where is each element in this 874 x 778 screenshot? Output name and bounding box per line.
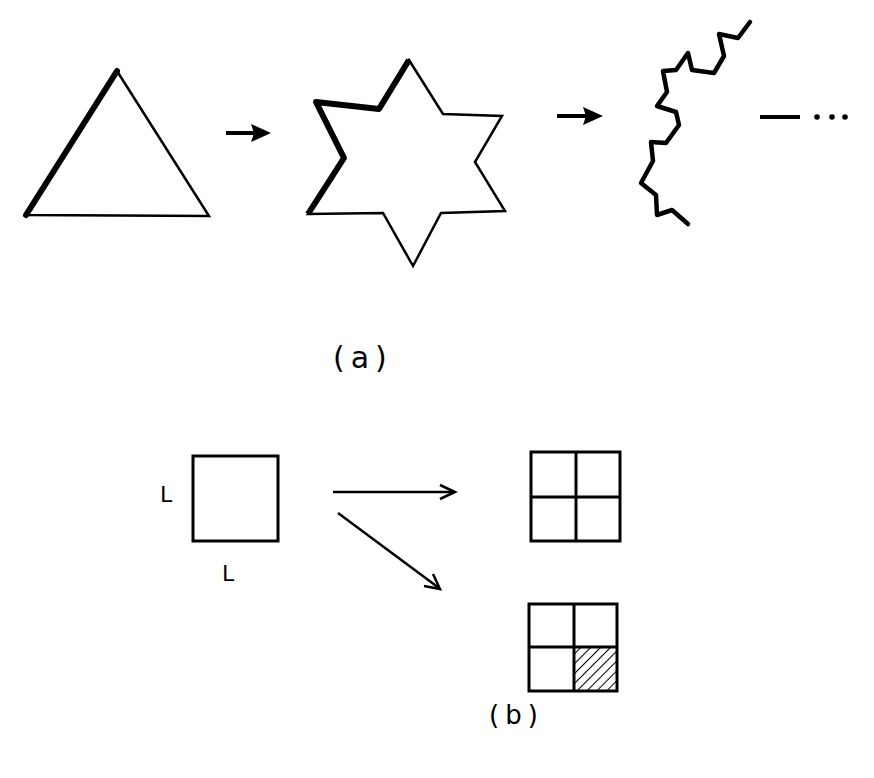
figure-canvas bbox=[0, 0, 874, 778]
triangle-shape bbox=[26, 71, 209, 216]
arrow-icon bbox=[333, 485, 455, 499]
continuation-icon bbox=[760, 114, 848, 120]
side-length-label-left: L bbox=[160, 482, 172, 507]
arrow-icon bbox=[226, 124, 271, 142]
panel-a-label: (a) bbox=[333, 340, 393, 375]
grid-2x2-shape bbox=[531, 452, 620, 541]
grid-2x2-hatched-shape bbox=[529, 604, 617, 691]
panel-b-label: (b) bbox=[489, 700, 544, 730]
koch-curve-shape bbox=[641, 22, 750, 224]
star-shape bbox=[308, 60, 505, 266]
side-length-label-bottom: L bbox=[222, 561, 234, 586]
arrow-icon bbox=[338, 513, 440, 589]
arrow-icon bbox=[557, 107, 603, 125]
square-shape bbox=[193, 456, 278, 541]
hatched-cell bbox=[574, 647, 616, 690]
